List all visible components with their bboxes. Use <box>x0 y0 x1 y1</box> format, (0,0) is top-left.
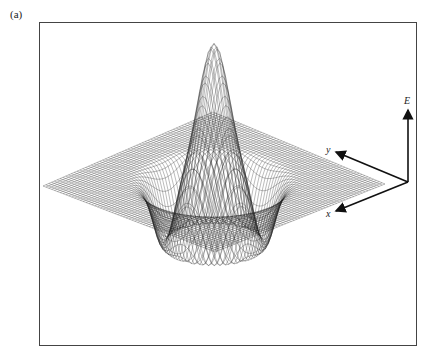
y-axis-label: y <box>325 144 331 155</box>
x-axis-arrow <box>336 182 408 211</box>
surface-plot: E y x <box>0 0 437 360</box>
wireframe-mesh <box>43 44 385 266</box>
mesh-lines <box>43 44 385 266</box>
x-axis-label: x <box>325 208 331 219</box>
e-axis-label: E <box>403 95 410 106</box>
